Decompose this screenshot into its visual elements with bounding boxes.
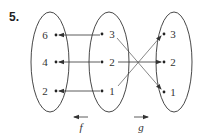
mapping-diagram-svg: 6 4 2 3 2 1 3 2 1 f g <box>0 0 200 135</box>
right-element-dot <box>163 33 166 36</box>
middle-element-label: 3 <box>109 28 115 40</box>
g-function-label: g <box>138 121 144 133</box>
middle-element-dot <box>101 33 104 36</box>
middle-element-dot <box>101 90 104 93</box>
right-element-label: 2 <box>170 56 176 68</box>
right-element-dot <box>163 61 166 64</box>
f-function-label: f <box>79 121 84 133</box>
left-element-label: 4 <box>42 56 48 68</box>
left-element-label: 6 <box>42 29 48 41</box>
problem-number: 5. <box>9 10 19 24</box>
left-element-dot <box>55 90 58 93</box>
middle-element-dot <box>101 61 104 64</box>
middle-element-label: 2 <box>109 56 115 68</box>
left-element-label: 2 <box>42 85 48 97</box>
right-element-dot <box>163 91 166 94</box>
g-mapping-arrow <box>117 38 161 89</box>
middle-element-label: 1 <box>109 85 115 97</box>
left-element-dot <box>55 34 58 37</box>
g-mapping-arrow <box>118 36 161 86</box>
right-element-label: 3 <box>170 28 176 40</box>
right-element-label: 1 <box>170 86 176 98</box>
function-diagram: 5. 6 4 2 3 2 1 3 2 1 <box>0 0 200 135</box>
left-element-dot <box>55 61 58 64</box>
